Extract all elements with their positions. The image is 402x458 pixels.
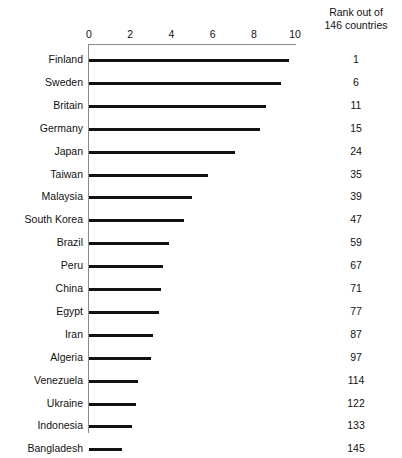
bar-sweden [89,82,281,85]
chart-row: South Korea47 [0,215,402,227]
country-label-germany: Germany [0,122,83,134]
x-tick-label-4: 4 [168,28,174,40]
chart-row: Finland1 [0,55,402,67]
country-label-malaysia: Malaysia [0,190,83,202]
x-tick-label-6: 6 [210,28,216,40]
rank-value-algeria: 97 [310,351,402,363]
rank-value-iran: 87 [310,328,402,340]
bar-japan [89,151,235,154]
chart-row: Brazil59 [0,238,402,250]
chart-row: Algeria97 [0,353,402,365]
chart-row: Peru67 [0,261,402,273]
country-label-iran: Iran [0,328,83,340]
country-label-sweden: Sweden [0,76,83,88]
rank-value-china: 71 [310,282,402,294]
chart-row: China71 [0,284,402,296]
country-label-venezuela: Venezuela [0,374,83,386]
chart-row: Egypt77 [0,307,402,319]
bar-indonesia [89,425,132,428]
rank-value-ukraine: 122 [310,397,402,409]
bar-ukraine [89,403,136,406]
bar-malaysia [89,196,192,199]
x-axis-tick-labels: 0246810 [0,28,402,42]
chart-row: Iran87 [0,330,402,342]
rank-value-britain: 11 [310,99,402,111]
rank-value-malaysia: 39 [310,190,402,202]
x-tick-label-0: 0 [86,28,92,40]
chart-row: Ukraine122 [0,399,402,411]
chart-row: Venezuela114 [0,376,402,388]
rank-value-indonesia: 133 [310,419,402,431]
rank-value-egypt: 77 [310,305,402,317]
chart-row: Bangladesh145 [0,444,402,456]
rank-value-sweden: 6 [310,76,402,88]
x-tick-label-2: 2 [127,28,133,40]
rank-value-bangladesh: 145 [310,442,402,454]
rank-value-brazil: 59 [310,236,402,248]
country-label-peru: Peru [0,259,83,271]
bar-bangladesh [89,448,122,451]
rank-value-south-korea: 47 [310,213,402,225]
country-label-china: China [0,282,83,294]
rank-value-peru: 67 [310,259,402,271]
rank-value-finland: 1 [310,53,402,65]
chart-row: Taiwan35 [0,170,402,182]
country-label-finland: Finland [0,53,83,65]
x-axis-line [89,44,296,45]
x-tick-label-10: 10 [289,28,301,40]
country-label-bangladesh: Bangladesh [0,442,83,454]
bar-brazil [89,242,169,245]
rank-value-venezuela: 114 [310,374,402,386]
country-label-taiwan: Taiwan [0,168,83,180]
rank-value-taiwan: 35 [310,168,402,180]
chart-row: Malaysia39 [0,192,402,204]
country-label-japan: Japan [0,145,83,157]
country-label-britain: Britain [0,99,83,111]
rank-header-line-1: Rank out of [310,6,402,19]
country-label-south-korea: South Korea [0,213,83,225]
chart-row: Britain11 [0,101,402,113]
bar-britain [89,105,266,108]
bar-egypt [89,311,159,314]
bar-taiwan [89,174,208,177]
bar-finland [89,59,289,62]
bar-germany [89,128,260,131]
x-tick-label-8: 8 [251,28,257,40]
bar-china [89,288,161,291]
country-label-algeria: Algeria [0,351,83,363]
chart-container: Rank out of 146 countries 0246810 Finlan… [0,0,402,458]
country-label-brazil: Brazil [0,236,83,248]
country-label-indonesia: Indonesia [0,419,83,431]
rank-value-japan: 24 [310,145,402,157]
chart-row: Indonesia133 [0,421,402,433]
chart-row: Japan24 [0,147,402,159]
country-label-ukraine: Ukraine [0,397,83,409]
bar-venezuela [89,380,138,383]
bar-south-korea [89,219,184,222]
bar-peru [89,265,163,268]
chart-row: Sweden6 [0,78,402,90]
rank-value-germany: 15 [310,122,402,134]
country-label-egypt: Egypt [0,305,83,317]
bar-algeria [89,357,151,360]
chart-row: Germany15 [0,124,402,136]
bar-iran [89,334,153,337]
